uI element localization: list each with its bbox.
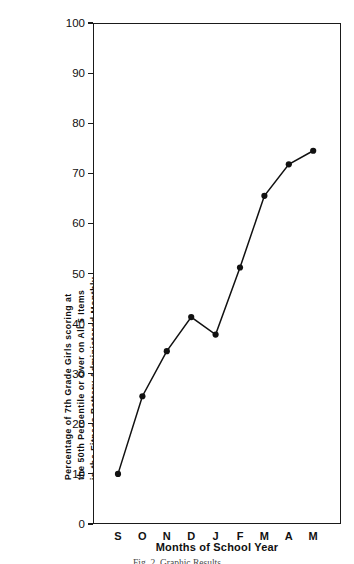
data-point (213, 332, 219, 338)
series-line (118, 151, 313, 474)
data-point (139, 393, 145, 399)
data-point (188, 314, 194, 320)
data-point (261, 193, 267, 199)
x-axis-title: Months of School Year (93, 541, 341, 553)
data-point (164, 348, 170, 354)
data-point (237, 264, 243, 270)
figure-caption: Fig. 2. Graphic Results (0, 558, 354, 564)
figure-container: Percentage of 7th Grade Girls scoring at… (0, 0, 354, 564)
data-series-layer (0, 0, 354, 564)
series-markers (115, 148, 316, 477)
data-point (310, 148, 316, 154)
data-point (286, 161, 292, 167)
data-point (115, 471, 121, 477)
